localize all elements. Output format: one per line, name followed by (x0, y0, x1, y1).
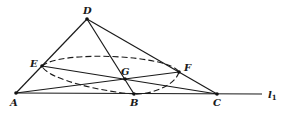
label-F: F (183, 62, 192, 73)
label-B: B (129, 97, 138, 108)
point-G (123, 77, 127, 81)
point-B (132, 92, 136, 96)
label-D: D (82, 5, 92, 16)
geometry-diagram: A B C D E F G l1 (0, 0, 282, 116)
label-A: A (9, 97, 18, 108)
point-F (177, 70, 181, 74)
point-A (14, 91, 18, 95)
label-l1: l1 (268, 89, 277, 102)
label-l-subscript: 1 (272, 93, 277, 102)
point-C (215, 92, 219, 96)
label-E: E (29, 58, 38, 69)
label-C: C (213, 97, 221, 108)
segment-AD (16, 19, 87, 93)
label-G: G (121, 66, 130, 77)
point-D (85, 17, 89, 21)
point-E (40, 64, 44, 68)
